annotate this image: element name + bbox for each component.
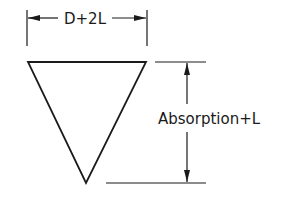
arrowhead-down-icon	[184, 170, 190, 182]
inverted-triangle-shape	[28, 62, 146, 183]
diagram-canvas: D+2L Absorption+L	[0, 0, 285, 207]
width-label: D+2L	[64, 10, 107, 28]
arrowhead-left-icon	[28, 15, 40, 21]
height-label: Absorption+L	[158, 110, 261, 128]
arrowhead-right-icon	[134, 15, 146, 21]
arrowhead-up-icon	[184, 63, 190, 75]
